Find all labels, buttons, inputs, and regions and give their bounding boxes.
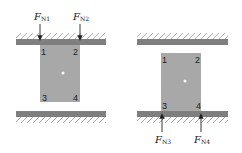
bottom-wall-hatch bbox=[16, 117, 106, 123]
corner-label-1: 1 bbox=[41, 47, 46, 57]
corner-label-3: 3 bbox=[162, 101, 167, 111]
left-panel: FN1 FN2 1 2 3 4 bbox=[16, 11, 106, 123]
diagram-canvas: FN1 FN2 1 2 3 4 FN3 FN4 1 2 3 4 bbox=[0, 0, 242, 153]
right-panel: FN3 FN4 1 2 3 4 bbox=[137, 33, 228, 145]
bottom-wall bbox=[16, 111, 106, 117]
force-label-fn4: FN4 bbox=[193, 134, 210, 145]
center-of-mass-dot bbox=[184, 80, 187, 83]
corner-label-2: 2 bbox=[195, 55, 200, 65]
corner-label-4: 4 bbox=[73, 93, 78, 103]
corner-label-3: 3 bbox=[42, 93, 47, 103]
force-label-fn2: FN2 bbox=[72, 11, 89, 22]
bottom-wall-hatch bbox=[137, 117, 228, 123]
center-of-mass-dot bbox=[62, 72, 65, 75]
top-wall-hatch bbox=[16, 33, 106, 39]
bottom-wall bbox=[137, 111, 228, 117]
corner-label-2: 2 bbox=[73, 47, 78, 57]
top-wall bbox=[16, 39, 106, 45]
corner-label-4: 4 bbox=[196, 101, 201, 111]
corner-label-1: 1 bbox=[162, 55, 167, 65]
top-wall-hatch bbox=[137, 33, 228, 39]
top-wall bbox=[137, 39, 228, 45]
force-label-fn3: FN3 bbox=[154, 134, 171, 145]
force-label-fn1: FN1 bbox=[33, 11, 50, 22]
